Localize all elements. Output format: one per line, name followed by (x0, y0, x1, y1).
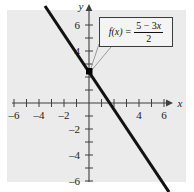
numerator-minus: − (144, 20, 150, 31)
y-tick-label-neg6: –6 (68, 175, 81, 187)
x-tick-label-neg4: –4 (33, 109, 46, 121)
y-intercept-marker (86, 68, 93, 75)
y-tick-label-neg4: –4 (68, 149, 81, 161)
formula-denominator: 2 (146, 34, 151, 44)
graph-figure: –6 –4 –2 4 6 6 4 –2 –4 –6 x y f(x) = 5 −… (0, 0, 194, 192)
y-axis-label: y (78, 0, 84, 12)
numerator-variable: x (157, 20, 161, 31)
numerator-constant: 5 (136, 20, 141, 31)
y-tick-label-6: 6 (75, 19, 81, 31)
y-tick-label-neg2: –2 (68, 123, 80, 135)
formula-text: f(x) = 5 − 3x 2 (109, 21, 164, 44)
x-tick-label-neg2: –2 (58, 109, 70, 121)
x-tick-label-6: 6 (161, 109, 167, 121)
function-formula-callout: f(x) = 5 − 3x 2 (99, 17, 173, 47)
x-tick-label-neg6: –6 (8, 109, 21, 121)
x-axis-label: x (177, 97, 183, 109)
formula-numerator: 5 − 3x (134, 21, 163, 31)
formula-function-name: f(x) (109, 27, 123, 37)
x-tick-label-4: 4 (136, 109, 142, 121)
formula-fraction: 5 − 3x 2 (134, 21, 163, 44)
formula-equals: = (123, 27, 135, 37)
